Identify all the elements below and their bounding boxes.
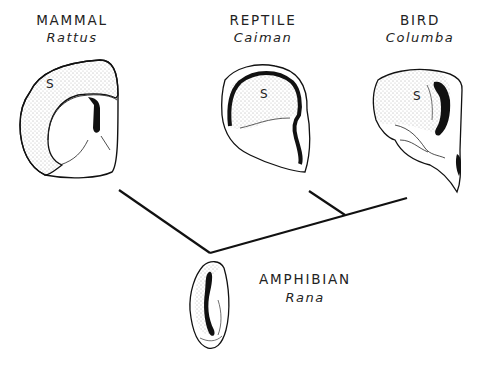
bird-brain-section: S: [373, 69, 462, 192]
mammal-brain-section: S: [20, 60, 118, 178]
amphibian-species-label: Rana: [250, 290, 360, 305]
mammal-region-label: S: [46, 77, 54, 91]
reptile-region-label: S: [260, 87, 268, 101]
reptile-group-label: REPTILE: [213, 12, 313, 28]
mammal-group-label: MAMMAL: [22, 12, 122, 28]
amphibian-group-label: AMPHIBIAN: [250, 271, 360, 287]
main-right-branch: [210, 198, 407, 253]
amphibian-brain-section: [190, 262, 229, 349]
reptile-species-label: Caiman: [213, 30, 313, 45]
reptile-branch: [309, 191, 345, 215]
mammal-branch: [119, 190, 210, 253]
reptile-brain-section: S: [222, 65, 310, 172]
bird-group-label: BIRD: [370, 12, 470, 28]
cladogram: [119, 190, 407, 253]
bird-species-label: Columba: [370, 30, 470, 45]
bird-region-label: S: [413, 89, 421, 103]
figure-canvas: S S S: [0, 0, 477, 366]
mammal-species-label: Rattus: [22, 30, 122, 45]
